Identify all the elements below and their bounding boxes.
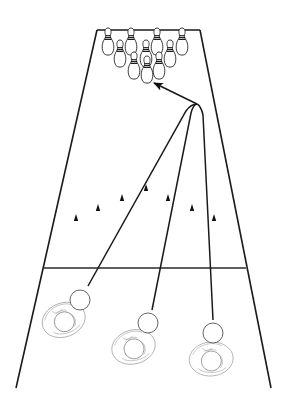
bowler-icon bbox=[188, 340, 235, 378]
target-arrow-icon bbox=[120, 194, 124, 201]
target-markers bbox=[74, 184, 216, 221]
bowling-lane-diagram bbox=[0, 0, 287, 407]
arrow-to-pins bbox=[154, 83, 197, 104]
ball-path-right bbox=[197, 104, 213, 320]
target-arrow-icon bbox=[166, 194, 170, 201]
bowler-right bbox=[188, 340, 235, 378]
pin-icon bbox=[125, 28, 137, 55]
bowling-ball-right bbox=[203, 323, 223, 343]
pin-icon bbox=[102, 28, 114, 55]
pin-deck bbox=[102, 28, 188, 83]
pin-icon bbox=[151, 28, 163, 55]
bowling-ball-left bbox=[70, 290, 90, 310]
pin-icon bbox=[176, 28, 188, 55]
target-arrow-icon bbox=[74, 214, 78, 221]
ball-paths bbox=[88, 83, 213, 320]
ball-path-center bbox=[152, 104, 197, 310]
bowling-ball-center bbox=[138, 313, 158, 333]
target-arrow-icon bbox=[212, 214, 216, 221]
pin-icon bbox=[128, 52, 140, 79]
pin-icon bbox=[153, 52, 165, 79]
diagram-svg bbox=[0, 0, 287, 407]
target-arrow-icon bbox=[190, 204, 194, 211]
pin-icon bbox=[114, 40, 126, 67]
ball-path-left bbox=[88, 104, 197, 286]
pin-icon bbox=[164, 40, 176, 67]
target-arrow-icon bbox=[96, 204, 100, 211]
